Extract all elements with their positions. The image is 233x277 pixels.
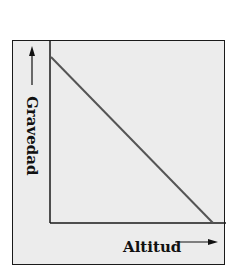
x-axis-label: Altitud: [122, 238, 182, 256]
y-axis-label: Gravedad: [23, 96, 41, 176]
chart: Altitud Gravedad: [0, 0, 233, 277]
x-arrowhead-icon: [208, 239, 218, 245]
y-arrowhead-icon: [29, 46, 35, 56]
data-line: [51, 57, 213, 223]
